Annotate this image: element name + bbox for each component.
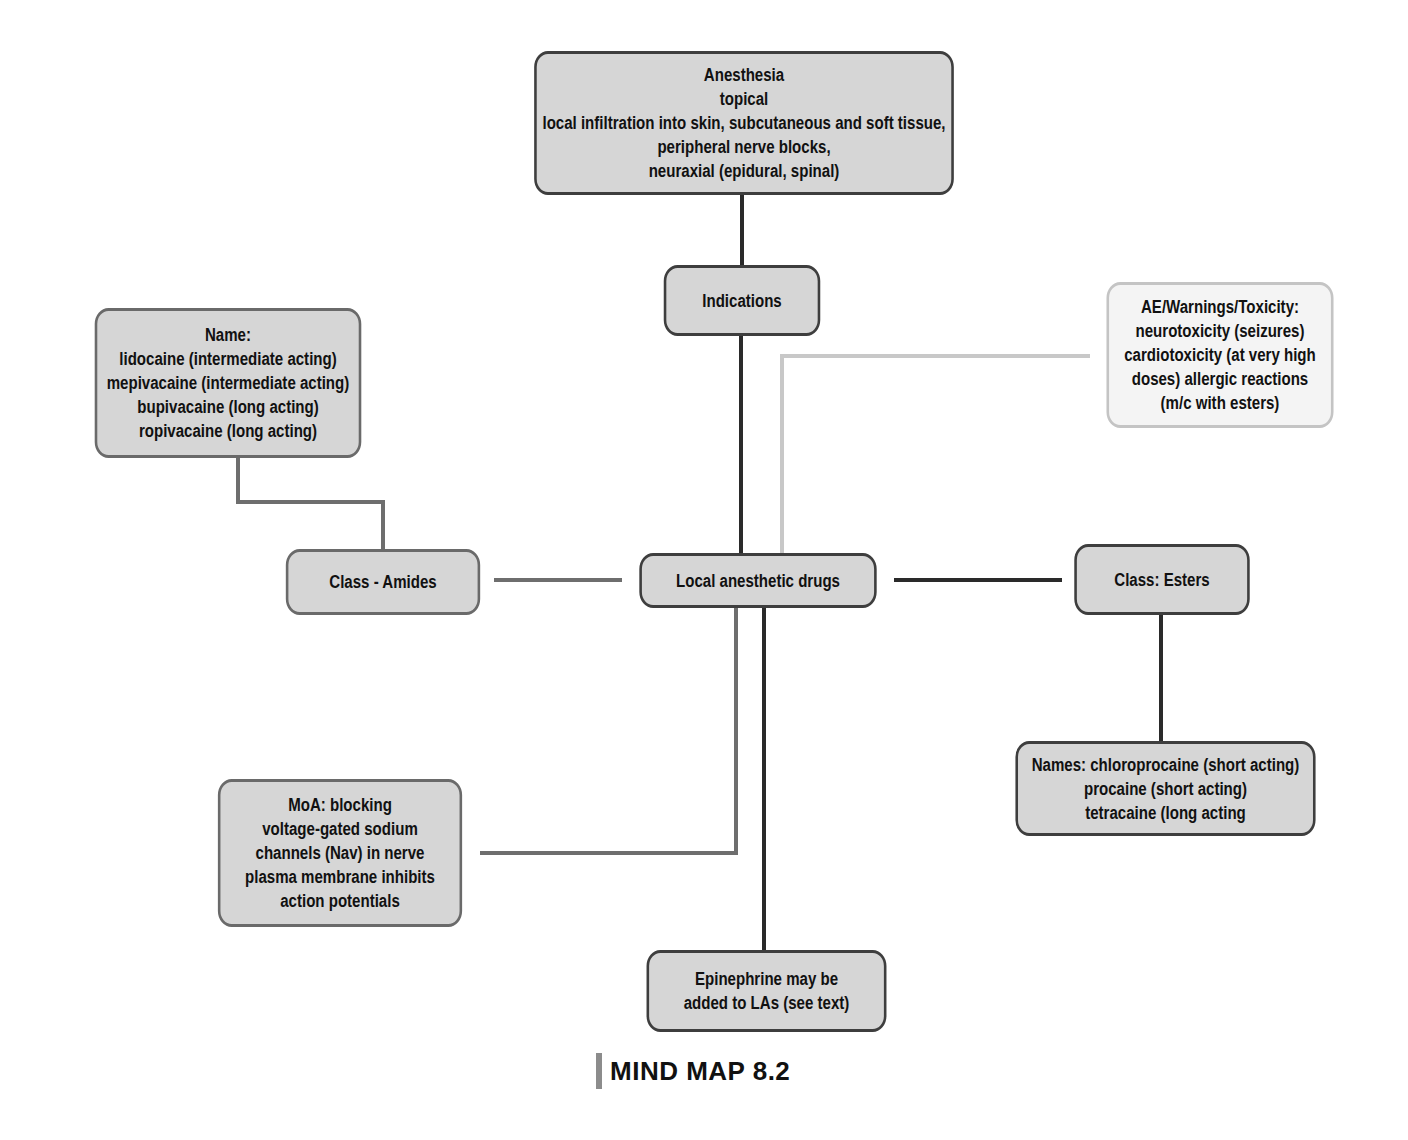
ae-line: neurotoxicity (seizures): [1136, 319, 1305, 343]
moa-line: voltage-gated sodium: [262, 817, 418, 841]
ester-name-line: tetracaine (long acting: [1085, 801, 1246, 825]
anesthesia-line: peripheral nerve blocks,: [657, 135, 830, 159]
anesthesia-line: Anesthesia: [704, 63, 784, 87]
caption-text: MIND MAP 8.2: [610, 1056, 790, 1087]
anesthesia-line: neuraxial (epidural, spinal): [649, 159, 840, 183]
node-class-esters: Class: Esters: [1074, 544, 1249, 615]
figure-caption: MIND MAP 8.2: [596, 1053, 790, 1089]
node-central: Local anesthetic drugs: [639, 553, 876, 608]
moa-line: MoA: blocking: [288, 793, 392, 817]
amide-name-line: lidocaine (intermediate acting): [119, 347, 336, 371]
mind-map: Anesthesia topical local infiltration in…: [0, 0, 1408, 1140]
ester-name-line: Names: chloroprocaine (short acting): [1032, 753, 1300, 777]
ae-line: cardiotoxicity (at very high: [1124, 343, 1316, 367]
edge-amides-names: [238, 456, 383, 550]
node-moa: MoA: blocking voltage-gated sodium chann…: [218, 779, 462, 927]
class-amides-label: Class - Amides: [329, 570, 436, 594]
node-indications: Indications: [664, 265, 821, 336]
node-amide-names: Name: lidocaine (intermediate acting) me…: [95, 308, 362, 458]
moa-line: channels (Nav) in nerve: [256, 841, 425, 865]
indications-label: Indications: [702, 289, 781, 313]
moa-line: plasma membrane inhibits: [245, 865, 435, 889]
node-epinephrine: Epinephrine may be added to LAs (see tex…: [647, 950, 887, 1032]
anesthesia-line: local infiltration into skin, subcutaneo…: [542, 111, 945, 135]
node-class-amides: Class - Amides: [286, 549, 480, 615]
node-ester-names: Names: chloroprocaine (short acting) pro…: [1015, 741, 1315, 836]
ester-name-line: procaine (short acting): [1084, 777, 1247, 801]
amide-name-line: Name:: [205, 323, 251, 347]
node-anesthesia: Anesthesia topical local infiltration in…: [534, 51, 954, 195]
class-esters-label: Class: Esters: [1114, 568, 1209, 592]
edge-central-ae: [782, 356, 1090, 554]
amide-name-line: mepivacaine (intermediate acting): [107, 371, 350, 395]
amide-name-line: bupivacaine (long acting): [137, 395, 318, 419]
epinephrine-line: Epinephrine may be: [695, 967, 838, 991]
anesthesia-line: topical: [720, 87, 769, 111]
edge-central-moa: [480, 606, 736, 853]
ae-line: (m/c with esters): [1161, 391, 1280, 415]
ae-line: AE/Warnings/Toxicity:: [1141, 295, 1299, 319]
moa-line: action potentials: [280, 889, 400, 913]
central-label: Local anesthetic drugs: [676, 569, 840, 593]
ae-line: doses) allergic reactions: [1132, 367, 1309, 391]
amide-name-line: ropivacaine (long acting): [139, 419, 317, 443]
caption-accent-bar: [596, 1053, 602, 1089]
epinephrine-line: added to LAs (see text): [684, 991, 850, 1015]
node-ae-warnings: AE/Warnings/Toxicity: neurotoxicity (sei…: [1106, 282, 1333, 428]
